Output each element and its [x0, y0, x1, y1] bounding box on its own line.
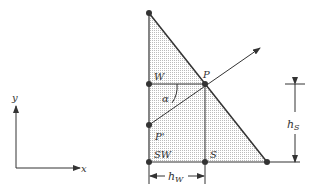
h-s-dimension: hS	[285, 84, 305, 162]
label-W: W	[154, 71, 165, 82]
label-alpha: α	[162, 93, 169, 104]
label-S: S	[210, 149, 217, 160]
y-axis-label: y	[11, 92, 18, 103]
label-SW: SW	[154, 149, 172, 160]
label-h-s: hS	[287, 118, 300, 132]
label-P: P	[202, 69, 210, 80]
label-P-prime: P'	[154, 131, 164, 142]
x-axis-label: x	[81, 163, 87, 174]
label-h-w: hW	[168, 170, 184, 184]
diagram: y x W P α P' SW S hS hW	[0, 0, 313, 194]
h-w-dimension: hW	[149, 165, 205, 184]
coordinate-axes: y x	[11, 92, 87, 174]
